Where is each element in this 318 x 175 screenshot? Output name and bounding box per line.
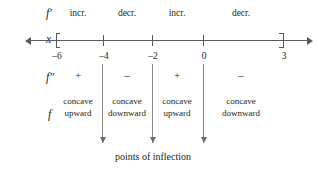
concavity-cell-4-line2: downward [222, 108, 260, 119]
concavity-cell-1-line2: upward [65, 108, 92, 119]
axis-tick-label-zero: 0 [202, 51, 207, 61]
inflection-arrow-neg4-icon [100, 137, 106, 143]
axis-bracket-left-bottom [56, 47, 60, 48]
axis-bracket-left-top [56, 33, 60, 34]
inflection-divider-neg2 [152, 64, 153, 143]
row-label-f: f [48, 108, 51, 120]
axis-bracket-right-top [279, 33, 283, 34]
axis-tick-label-neg2: –2 [148, 51, 158, 61]
f-prime-interval-2: decr. [118, 8, 136, 19]
f-double-prime-sign-4: – [238, 70, 244, 81]
row-label-f-prime: f′ [46, 7, 52, 19]
axis-tick-neg4 [103, 35, 104, 46]
f-double-prime-sign-3: + [174, 70, 180, 81]
axis-tick-label-three: 3 [282, 51, 287, 61]
f-prime-interval-1: incr. [70, 8, 87, 19]
concavity-cell-4-line1: concave [226, 96, 255, 107]
inflection-divider-zero [203, 64, 204, 143]
sign-chart-diagram: f′ x f″ f incr. decr. incr. decr. –6 –4 … [0, 0, 318, 175]
axis-bracket-right-bottom [279, 47, 283, 48]
axis-tick-neg2 [152, 35, 153, 46]
inflection-arrow-neg2-icon [150, 137, 156, 143]
concavity-cell-3-line1: concave [162, 96, 191, 107]
f-double-prime-sign-2: – [124, 70, 130, 81]
axis-tick-label-neg6: –6 [52, 51, 62, 61]
row-label-f-double-prime: f″ [46, 71, 54, 83]
axis-arrow-right-icon [307, 37, 313, 45]
axis-tick-label-neg4: –4 [99, 51, 109, 61]
number-line-axis [31, 40, 308, 41]
concavity-cell-2-line1: concave [112, 96, 141, 107]
inflection-caption: points of inflection [115, 151, 191, 162]
axis-tick-zero [203, 35, 204, 46]
f-prime-interval-3: incr. [169, 8, 186, 19]
inflection-arrow-zero-icon [201, 137, 207, 143]
axis-arrow-left-icon [25, 37, 31, 45]
f-double-prime-sign-1: + [75, 70, 81, 81]
axis-bracket-right-stem [283, 33, 284, 48]
axis-bracket-left-stem [56, 33, 57, 48]
concavity-cell-1-line1: concave [63, 96, 92, 107]
concavity-cell-3-line2: upward [164, 108, 191, 119]
f-prime-interval-4: decr. [232, 8, 250, 19]
inflection-divider-neg4 [102, 64, 103, 143]
concavity-cell-2-line2: downward [108, 108, 146, 119]
row-label-x-axis: x [46, 33, 51, 45]
